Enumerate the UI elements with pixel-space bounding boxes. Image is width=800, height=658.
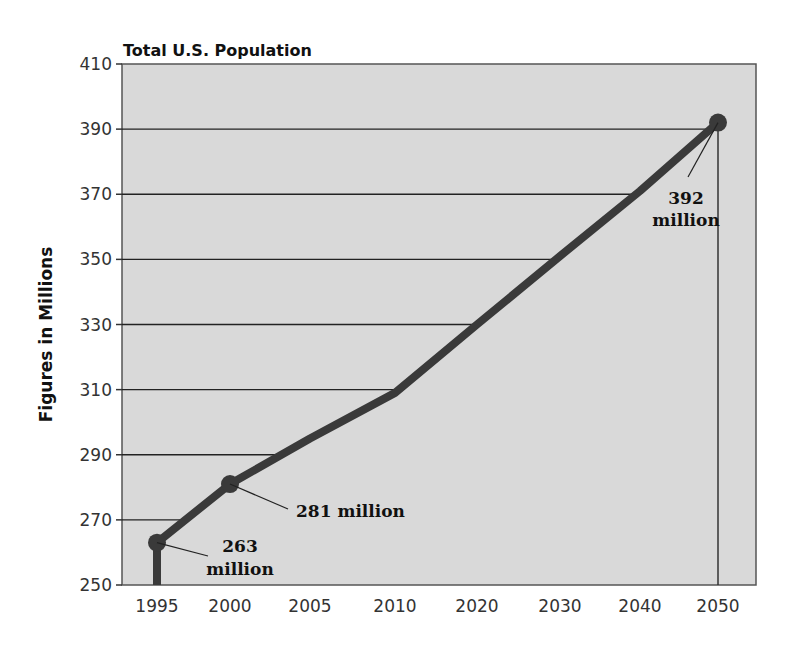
annotation-2000-value: 281 million (296, 501, 405, 521)
x-tick-label: 1995 (135, 596, 178, 616)
y-tick-label: 250 (80, 575, 112, 595)
y-tick-label: 370 (80, 184, 112, 204)
y-tick-label: 350 (80, 249, 112, 269)
y-tick-label: 270 (80, 510, 112, 530)
x-tick-label: 2010 (373, 596, 416, 616)
annotation-1995-unit: million (206, 559, 274, 579)
y-tick-label: 410 (80, 54, 112, 74)
annotation-1995-value: 263 (222, 536, 258, 556)
y-axis-label: Figures in Millions (36, 247, 56, 423)
x-tick-label: 2005 (288, 596, 331, 616)
y-tick-label: 390 (80, 119, 112, 139)
chart-title: Total U.S. Population (123, 41, 312, 60)
x-tick-label: 2000 (208, 596, 251, 616)
x-tick-label: 2020 (455, 596, 498, 616)
x-tick-label: 2040 (618, 596, 661, 616)
annotation-2050-unit: million (652, 210, 720, 230)
y-tick-label: 310 (80, 380, 112, 400)
x-tick-label: 2030 (538, 596, 581, 616)
y-tick-label: 330 (80, 315, 112, 335)
x-tick-label: 2050 (696, 596, 739, 616)
population-line-chart: Total U.S. PopulationFigures in Millions… (0, 0, 800, 658)
annotation-2050-value: 392 (668, 188, 704, 208)
y-tick-label: 290 (80, 445, 112, 465)
